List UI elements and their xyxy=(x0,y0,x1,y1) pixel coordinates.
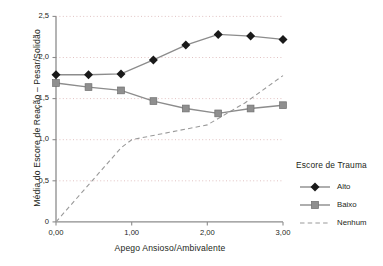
diamond-marker-line-icon xyxy=(300,181,330,193)
chart-figure: 2,5 2,0 1,5 1,0 0,5 0 0,00 1,00 2,00 3,0… xyxy=(0,0,383,266)
legend-title: Escore de Trauma xyxy=(296,160,382,170)
legend-label-alto: Alto xyxy=(337,182,350,191)
y-axis-title: Média do Escore de Reação – Pesar/Solidã… xyxy=(32,18,42,218)
x-tick-label-1-00: 1,00 xyxy=(117,228,147,237)
dashed-line-icon xyxy=(300,217,330,229)
gridlines xyxy=(56,16,283,180)
x-tick-label-3-00: 3,00 xyxy=(268,228,298,237)
x-tick-label-2-00: 2,00 xyxy=(192,228,222,237)
x-axis-title: Apego Ansioso/Ambivalente xyxy=(56,243,284,253)
square-marker-line-icon xyxy=(300,199,330,211)
alto-markers xyxy=(52,30,288,79)
x-tick-label-0-00: 0,00 xyxy=(41,228,71,237)
y-tick-label-0: 0 xyxy=(25,217,49,226)
legend-item-baixo: Baixo xyxy=(296,197,382,212)
legend-item-nenhum: Nenhum xyxy=(296,215,382,230)
legend: Escore de Trauma Alto Baixo Nenhum xyxy=(296,160,382,233)
legend-label-nenhum: Nenhum xyxy=(337,218,366,227)
legend-item-alto: Alto xyxy=(296,179,382,194)
x-axis xyxy=(56,222,283,226)
y-axis xyxy=(53,16,57,222)
series-alto xyxy=(52,30,288,79)
legend-label-baixo: Baixo xyxy=(337,200,357,209)
series-nenhum xyxy=(56,76,283,222)
